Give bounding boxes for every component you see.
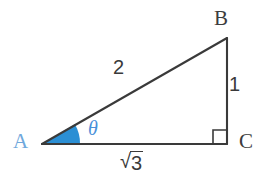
edge-a-to-b-hypotenuse <box>42 38 227 144</box>
vertex-label-c: C <box>239 131 253 152</box>
geometry-figure: A B C 2 1 √ 3 θ <box>0 0 266 186</box>
vertex-label-b: B <box>214 8 228 29</box>
side-label-hypotenuse: 2 <box>113 57 124 77</box>
vertex-label-a: A <box>13 131 28 152</box>
side-label-adjacent: √ 3 <box>120 151 143 173</box>
right-angle-marker-icon <box>213 130 227 144</box>
angle-label-theta: θ <box>88 118 98 138</box>
side-label-opposite: 1 <box>229 74 240 94</box>
radicand-value: 3 <box>130 151 143 173</box>
